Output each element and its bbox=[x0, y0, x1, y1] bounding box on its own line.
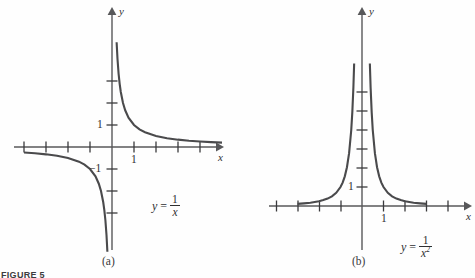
figure-container: y x 1 −1 1 y = 1 x (a) bbox=[0, 0, 475, 278]
y-axis-b bbox=[357, 7, 368, 250]
y-axis-arrow-b bbox=[358, 7, 367, 15]
equation-b-denominator: x2 bbox=[419, 247, 432, 259]
equation-b: y = 1 x2 bbox=[401, 234, 432, 259]
equation-b-fraction: 1 x2 bbox=[419, 234, 432, 259]
x-axis-b bbox=[269, 201, 472, 212]
equation-b-lhs: y bbox=[401, 241, 406, 253]
figure-caption: FIGURE 5 bbox=[1, 271, 45, 278]
y-tick-label-b-one: 1 bbox=[348, 181, 354, 193]
x-axis-label-b: x bbox=[466, 211, 471, 222]
equation-b-equals: = bbox=[408, 241, 417, 253]
y-axis-label-b: y bbox=[369, 6, 374, 17]
x-tick-label-b-one: 1 bbox=[381, 213, 387, 225]
equation-b-exponent: 2 bbox=[426, 245, 430, 254]
curve-b-right-branch bbox=[370, 64, 427, 204]
panel-label-b: (b) bbox=[352, 256, 365, 268]
curve-b-left-branch bbox=[298, 64, 355, 204]
